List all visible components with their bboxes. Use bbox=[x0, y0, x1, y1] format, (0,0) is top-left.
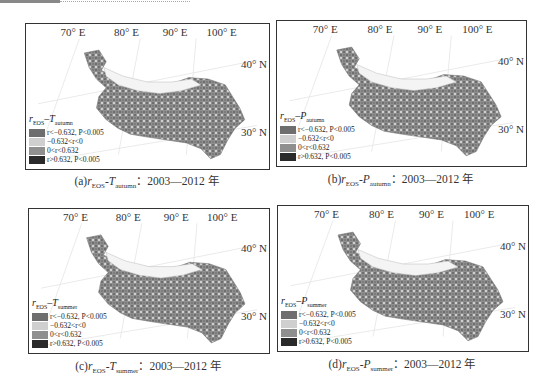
legend-title-sub: EOS bbox=[285, 302, 296, 308]
caption-r-sub: EOS bbox=[346, 180, 359, 188]
legend-label: r>0.632, P<0.005 bbox=[47, 155, 100, 164]
legend-item: 0<r<0.632 bbox=[280, 143, 355, 152]
header-dotted-rule bbox=[60, 1, 190, 2]
legend-swatch bbox=[281, 320, 297, 328]
legend-swatch bbox=[32, 322, 48, 330]
legend-item: r>0.632, P<0.005 bbox=[281, 337, 356, 346]
longitude-label: 70° E bbox=[63, 211, 88, 223]
legend-title: rEOS–Pautumn bbox=[280, 110, 355, 123]
legend-item: 0<r<0.632 bbox=[281, 328, 356, 337]
map-panel-a: 70° E80° E90° E100° E40° N30° NrEOS–Taut… bbox=[25, 23, 270, 170]
map-panel-c: 70° E80° E90° E100° E40° N30° NrEOS–Tsum… bbox=[28, 208, 270, 354]
legend-title-sub: EOS bbox=[36, 304, 47, 310]
legend-title-sub: EOS bbox=[284, 117, 295, 123]
legend-item: −0.632<r<0 bbox=[281, 319, 356, 328]
legend-label: −0.632<r<0 bbox=[299, 319, 335, 328]
legend-label: r<−0.632, P<0.005 bbox=[298, 125, 355, 134]
legend-swatch bbox=[29, 129, 45, 137]
legend-title-var-sub: summer bbox=[307, 302, 326, 308]
longitude-label: 90° E bbox=[164, 211, 189, 223]
legend-label: r>0.632, P<0.005 bbox=[299, 337, 352, 346]
legend-item: r<−0.632, P<0.005 bbox=[32, 312, 107, 321]
caption-var: P bbox=[363, 173, 370, 185]
caption-var-sub: autumn bbox=[370, 180, 391, 188]
latitude-label: 40° N bbox=[241, 58, 267, 70]
longitude-label: 80° E bbox=[368, 23, 393, 35]
legend-item: 0<r<0.632 bbox=[32, 330, 107, 339]
legend-label: 0<r<0.632 bbox=[299, 328, 331, 337]
legend-label: r<−0.632, P<0.005 bbox=[50, 312, 107, 321]
caption-var-sub: summer bbox=[116, 367, 139, 375]
map-legend: rEOS–Pautumnr<−0.632, P<0.005−0.632<r<00… bbox=[280, 110, 355, 161]
legend-swatch bbox=[280, 135, 296, 143]
latitude-label: 30° N bbox=[500, 308, 526, 320]
latitude-label: 30° N bbox=[498, 123, 524, 135]
caption-period: ：2003—2012 年 bbox=[138, 360, 220, 372]
legend-swatch bbox=[280, 144, 296, 152]
legend-title-var-sub: summer bbox=[58, 304, 77, 310]
latitude-label: 30° N bbox=[241, 126, 267, 138]
legend-item: r>0.632, P<0.005 bbox=[29, 155, 104, 164]
legend-label: r>0.632, P<0.005 bbox=[298, 152, 351, 161]
map-panel-d: 70° E80° E90° E100° E40° N30° NrEOS–Psum… bbox=[277, 205, 529, 352]
legend-label: r<−0.632, P<0.005 bbox=[47, 128, 104, 137]
legend-item: r>0.632, P<0.005 bbox=[32, 339, 107, 348]
longitude-label: 100° E bbox=[462, 23, 492, 35]
longitude-label: 80° E bbox=[114, 26, 139, 38]
longitude-label: 70° E bbox=[314, 208, 339, 220]
caption-r-sub: EOS bbox=[92, 367, 105, 375]
legend-label: 0<r<0.632 bbox=[298, 143, 330, 152]
map-panel-b: 70° E80° E90° E100° E40° N30° NrEOS–Paut… bbox=[276, 20, 527, 167]
legend-label: 0<r<0.632 bbox=[50, 330, 82, 339]
map-legend: rEOS–Tautumnr<−0.632, P<0.005−0.632<r<00… bbox=[29, 113, 104, 164]
latitude-label: 40° N bbox=[498, 55, 524, 67]
longitude-label: 90° E bbox=[417, 23, 442, 35]
longitude-label: 80° E bbox=[116, 211, 141, 223]
longitude-label: 100° E bbox=[464, 208, 494, 220]
map-legend: rEOS–Psummerr<−0.632, P<0.005−0.632<r<00… bbox=[281, 295, 356, 346]
latitude-label: 40° N bbox=[500, 240, 526, 252]
plateau-region bbox=[84, 50, 244, 159]
plateau-region bbox=[87, 235, 245, 343]
caption-c: (c)rEOS-Tsummer：2003—2012 年 bbox=[28, 357, 268, 375]
legend-swatch bbox=[29, 138, 45, 146]
legend-swatch bbox=[280, 126, 296, 134]
caption-var-sub: summer bbox=[371, 365, 394, 373]
caption-label: (c) bbox=[75, 360, 88, 372]
legend-swatch bbox=[29, 156, 45, 164]
legend-swatch bbox=[281, 311, 297, 319]
legend-item: −0.632<r<0 bbox=[280, 134, 355, 143]
caption-period: ：2003—2012 年 bbox=[391, 173, 473, 185]
legend-swatch bbox=[281, 329, 297, 337]
legend-item: 0<r<0.632 bbox=[29, 146, 104, 155]
legend-title: rEOS–Psummer bbox=[281, 295, 356, 308]
legend-title-var-sub: autumn bbox=[55, 120, 73, 126]
caption-a: (a)rEOS-Tautumn：2003—2012 年 bbox=[25, 172, 268, 190]
plateau-region bbox=[338, 232, 503, 341]
legend-label: 0<r<0.632 bbox=[47, 146, 79, 155]
legend-label: r<−0.632, P<0.005 bbox=[299, 310, 356, 319]
longitude-label: 100° E bbox=[206, 26, 236, 38]
legend-swatch bbox=[280, 153, 296, 161]
legend-item: −0.632<r<0 bbox=[32, 321, 107, 330]
latitude-label: 30° N bbox=[241, 310, 267, 322]
legend-item: r<−0.632, P<0.005 bbox=[281, 310, 356, 319]
legend-label: −0.632<r<0 bbox=[298, 134, 334, 143]
caption-label: (d) bbox=[329, 358, 342, 370]
legend-title: rEOS–Tsummer bbox=[32, 297, 107, 310]
longitude-label: 70° E bbox=[313, 23, 338, 35]
longitude-label: 80° E bbox=[369, 208, 394, 220]
caption-r-sub: EOS bbox=[92, 182, 105, 190]
caption-var: P bbox=[364, 358, 371, 370]
longitude-label: 90° E bbox=[419, 208, 444, 220]
header-rule bbox=[0, 0, 60, 3]
caption-label: (a) bbox=[74, 175, 87, 187]
legend-item: r>0.632, P<0.005 bbox=[280, 152, 355, 161]
caption-r-sub: EOS bbox=[346, 365, 359, 373]
legend-swatch bbox=[32, 313, 48, 321]
legend-swatch bbox=[29, 147, 45, 155]
legend-label: −0.632<r<0 bbox=[50, 321, 86, 330]
legend-label: r>0.632, P<0.005 bbox=[50, 339, 103, 348]
legend-item: r<−0.632, P<0.005 bbox=[29, 128, 104, 137]
legend-item: r<−0.632, P<0.005 bbox=[280, 125, 355, 134]
